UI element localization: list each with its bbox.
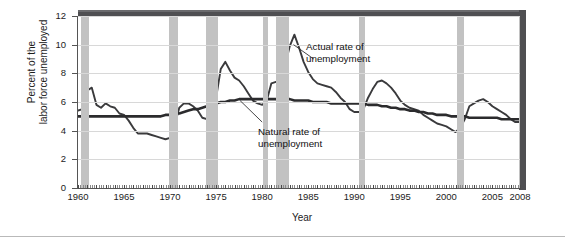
x-axis-minor-tick xyxy=(288,185,289,188)
x-axis-minor-tick xyxy=(182,185,183,188)
x-axis-minor-tick xyxy=(495,185,496,188)
x-axis-tick-label: 1990 xyxy=(334,191,374,202)
x-axis-minor-tick xyxy=(502,185,503,189)
x-axis-minor-tick xyxy=(504,185,505,188)
x-axis-minor-tick xyxy=(384,185,385,188)
x-axis-minor-tick xyxy=(260,185,261,188)
x-axis-minor-tick xyxy=(103,185,104,188)
x-axis-minor-tick xyxy=(387,185,388,188)
x-axis-minor-tick xyxy=(488,185,489,188)
x-axis-minor-tick xyxy=(225,185,226,189)
x-axis-minor-tick xyxy=(235,185,236,189)
x-axis-minor-tick xyxy=(99,185,100,188)
x-axis-minor-tick xyxy=(129,185,130,188)
x-axis-minor-tick xyxy=(166,185,167,188)
x-axis-minor-tick xyxy=(170,185,171,189)
annotation-natural-line1: Natural rate of xyxy=(258,126,368,138)
x-axis-minor-tick xyxy=(472,185,473,188)
x-axis-minor-tick xyxy=(499,185,500,188)
x-axis-minor-tick xyxy=(474,185,475,189)
x-axis-minor-tick xyxy=(334,185,335,188)
x-axis-minor-tick xyxy=(297,185,298,188)
x-axis-minor-tick xyxy=(184,185,185,188)
x-axis-minor-tick xyxy=(271,185,272,189)
annotation-actual-rate: Actual rate of unemployment xyxy=(306,41,416,64)
x-axis-minor-tick xyxy=(393,185,394,188)
x-axis-minor-tick xyxy=(486,185,487,188)
x-axis-minor-tick xyxy=(186,185,187,188)
x-axis-minor-tick xyxy=(154,185,155,188)
chart-frame-top-highlight xyxy=(78,10,526,12)
y-axis-tick xyxy=(72,188,77,189)
x-axis-tick-label: 1960 xyxy=(58,191,98,202)
x-axis-minor-tick xyxy=(375,185,376,188)
x-axis-minor-tick xyxy=(78,185,79,189)
x-axis-minor-tick xyxy=(364,185,365,189)
x-axis-minor-tick xyxy=(92,185,93,188)
x-axis-minor-tick xyxy=(315,185,316,188)
y-axis-tick xyxy=(72,16,77,17)
x-axis-minor-tick xyxy=(106,185,107,189)
x-axis-minor-tick xyxy=(253,185,254,189)
x-axis-minor-tick xyxy=(446,185,447,189)
x-axis-minor-tick xyxy=(435,185,436,188)
x-axis-tick-label: 1970 xyxy=(150,191,190,202)
x-axis-minor-tick xyxy=(126,185,127,188)
x-axis-minor-tick xyxy=(476,185,477,188)
x-axis-minor-tick xyxy=(405,185,406,188)
x-axis-minor-tick xyxy=(329,185,330,188)
x-axis-minor-tick xyxy=(230,185,231,188)
x-axis-minor-tick xyxy=(469,185,470,188)
x-axis-minor-tick xyxy=(483,185,484,189)
x-axis-minor-tick xyxy=(193,185,194,188)
x-axis-minor-tick xyxy=(209,185,210,188)
y-axis-line xyxy=(77,16,78,189)
x-axis-minor-tick xyxy=(304,185,305,188)
x-axis-minor-tick xyxy=(281,185,282,189)
x-axis-minor-tick xyxy=(110,185,111,188)
x-axis-minor-tick xyxy=(340,185,341,188)
annotation-actual-line1: Actual rate of xyxy=(306,41,416,53)
x-axis-minor-tick xyxy=(370,185,371,188)
x-axis-minor-tick xyxy=(283,185,284,188)
x-axis-minor-tick xyxy=(83,185,84,188)
x-axis-minor-tick xyxy=(290,185,291,189)
x-axis-minor-tick xyxy=(248,185,249,188)
x-axis-minor-tick xyxy=(357,185,358,188)
x-axis-minor-tick xyxy=(419,185,420,189)
x-axis-minor-tick xyxy=(449,185,450,188)
x-axis-minor-tick xyxy=(244,185,245,189)
x-axis-minor-tick xyxy=(308,185,309,189)
x-axis-minor-tick xyxy=(451,185,452,188)
x-axis-tick-label: 1965 xyxy=(104,191,144,202)
x-axis-minor-tick xyxy=(200,185,201,188)
annotation-actual-line2: unemployment xyxy=(306,53,416,65)
x-axis-tick-label: 1995 xyxy=(380,191,420,202)
x-axis-minor-tick xyxy=(241,185,242,188)
x-axis-minor-tick xyxy=(439,185,440,188)
y-axis-tick xyxy=(72,159,77,160)
x-axis-minor-tick xyxy=(416,185,417,188)
y-axis-title: Percent of the labor force unemployed xyxy=(26,0,50,157)
x-axis-minor-tick xyxy=(338,185,339,188)
x-axis-minor-tick xyxy=(108,185,109,188)
x-axis-minor-tick xyxy=(313,185,314,188)
x-axis-minor-tick xyxy=(90,185,91,188)
x-axis-minor-tick xyxy=(414,185,415,188)
x-axis-minor-tick xyxy=(276,185,277,188)
x-axis-minor-tick xyxy=(195,185,196,188)
x-axis-minor-tick xyxy=(403,185,404,188)
x-axis-minor-tick xyxy=(262,185,263,189)
x-axis-minor-tick xyxy=(143,185,144,189)
x-axis-minor-tick xyxy=(481,185,482,188)
x-axis-minor-tick xyxy=(458,185,459,188)
x-axis-minor-tick xyxy=(490,185,491,188)
y-axis-tick xyxy=(72,131,77,132)
x-axis-minor-tick xyxy=(368,185,369,188)
x-axis-minor-tick xyxy=(331,185,332,188)
x-axis-minor-tick xyxy=(177,185,178,188)
x-axis-minor-tick xyxy=(237,185,238,188)
x-axis-minor-tick xyxy=(163,185,164,188)
x-axis-minor-tick xyxy=(506,185,507,188)
x-axis-minor-tick xyxy=(462,185,463,188)
